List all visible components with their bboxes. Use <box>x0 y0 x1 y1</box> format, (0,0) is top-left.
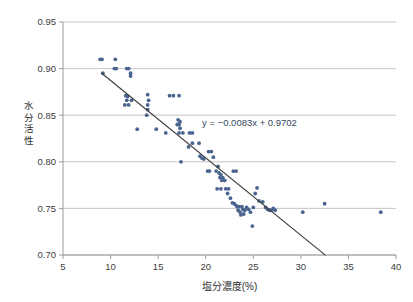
data-point <box>135 127 139 131</box>
trendline <box>101 73 326 256</box>
data-point <box>177 131 181 135</box>
data-point <box>168 94 172 98</box>
data-point <box>323 202 327 206</box>
data-point <box>379 210 383 214</box>
data-point <box>219 187 223 191</box>
x-tick-label-6: 35 <box>343 261 354 272</box>
data-point <box>226 192 230 196</box>
regression-equation-label: y = −0.0083x + 0.9702 <box>202 117 297 128</box>
data-point <box>147 98 151 102</box>
data-point <box>154 127 158 131</box>
y-tick-label-0: 0.70 <box>38 249 57 260</box>
data-point <box>177 94 181 98</box>
trendline-line <box>101 73 326 256</box>
data-point <box>100 57 104 61</box>
x-axis-title: 塩分濃度(%) <box>202 280 258 292</box>
data-point <box>197 141 201 145</box>
data-point <box>223 179 227 183</box>
scatter-chart: 水 分 活 性 0.700.750.800.850.900.95 5101520… <box>0 0 413 302</box>
data-point <box>175 123 179 127</box>
x-tick-label-3: 20 <box>200 261 211 272</box>
data-point <box>210 150 214 154</box>
data-point <box>190 141 194 145</box>
data-point <box>181 131 185 135</box>
y-tick-label-2: 0.80 <box>38 156 57 167</box>
data-point <box>251 206 255 210</box>
y-axis-tick-labels: 0.700.750.800.850.900.95 <box>38 16 64 260</box>
x-tick-label-4: 25 <box>248 261 259 272</box>
plot-area: 0.700.750.800.850.900.95 510152025303540… <box>0 0 413 302</box>
data-point <box>234 169 238 173</box>
data-point <box>255 186 259 190</box>
data-point <box>171 94 175 98</box>
data-point <box>190 131 194 135</box>
x-tick-label-5: 30 <box>296 261 307 272</box>
data-point <box>273 208 277 212</box>
data-point <box>129 74 133 78</box>
data-point <box>250 224 254 228</box>
data-point <box>179 160 183 164</box>
x-axis-tick-marks <box>63 255 396 259</box>
data-point <box>239 213 243 217</box>
data-point <box>178 126 182 130</box>
data-point <box>127 67 131 71</box>
data-point <box>125 98 129 102</box>
data-point <box>123 103 127 107</box>
x-tick-label-0: 5 <box>60 261 65 272</box>
y-tick-label-4: 0.90 <box>38 63 57 74</box>
data-point <box>227 187 231 191</box>
data-point <box>229 196 233 200</box>
x-tick-label-2: 15 <box>153 261 164 272</box>
y-tick-label-3: 0.85 <box>38 110 57 121</box>
data-point <box>249 210 253 214</box>
gridlines <box>63 22 396 255</box>
data-point <box>211 155 215 159</box>
data-point <box>127 103 131 107</box>
x-tick-label-1: 10 <box>105 261 116 272</box>
x-axis-tick-labels: 510152025303540 <box>60 261 401 272</box>
x-tick-label-7: 40 <box>391 261 402 272</box>
data-point <box>113 57 117 61</box>
data-point <box>208 169 212 173</box>
axis-lines <box>63 22 396 255</box>
data-point <box>146 93 150 97</box>
data-point <box>146 103 150 107</box>
data-point <box>301 210 305 214</box>
data-point <box>145 113 149 117</box>
data-points <box>98 57 382 228</box>
data-point <box>164 131 168 135</box>
data-point <box>215 187 219 191</box>
y-tick-label-5: 0.95 <box>38 16 57 27</box>
data-point <box>253 192 257 196</box>
y-tick-label-1: 0.75 <box>38 203 57 214</box>
data-point <box>114 67 118 71</box>
